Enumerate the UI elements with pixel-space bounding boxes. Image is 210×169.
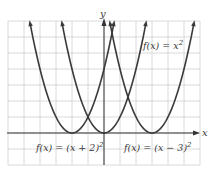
- x-axis-label: x: [202, 127, 208, 138]
- y-axis-arrow-icon: [102, 18, 107, 26]
- x-axis-arrow-icon: [193, 131, 200, 136]
- y-axis-label: y: [99, 8, 106, 19]
- label-x-minus-3-squared: f(x) = (x − 3)2: [123, 141, 192, 153]
- label-x-plus-2-squared: f(x) = (x + 2)2: [35, 141, 104, 153]
- label-x-squared: f(x) = x2: [142, 39, 184, 51]
- curve-labels: f(x) = x2 f(x) = (x + 2)2 f(x) = (x − 3)…: [35, 39, 192, 153]
- parabola-graph: x y f(x) = x2 f(x) = (x + 2)2 f(x) = (x …: [0, 0, 210, 169]
